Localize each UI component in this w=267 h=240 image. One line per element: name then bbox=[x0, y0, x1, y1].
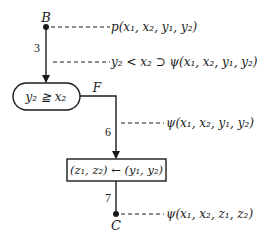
assertion-edge-6: ψ(x₁, x₂, y₁, y₂) bbox=[166, 116, 254, 130]
assertion-edge-3: y₂ < x₂ ⊃ ψ(x₁, x₂, y₁, y₂) bbox=[110, 55, 258, 69]
assignment-text: (z₁, z₂) ← (y₁, y₂) bbox=[70, 163, 163, 177]
edge-7-label: 7 bbox=[105, 191, 111, 205]
node-b-label: B bbox=[40, 10, 51, 25]
flowchart-diagram: B 3 p(x₁, x₂, y₁, y₂) y₂ < x₂ ⊃ ψ(x₁, x₂… bbox=[0, 0, 267, 240]
edge-6-label: 6 bbox=[105, 125, 111, 139]
node-c-dot bbox=[113, 211, 119, 217]
assertion-p: p(x₁, x₂, y₁, y₂) bbox=[111, 20, 198, 34]
edge-3-label: 3 bbox=[34, 41, 40, 55]
assertion-c: ψ(x₁, x₂, z₁, z₂) bbox=[166, 207, 253, 221]
node-c-label: C bbox=[111, 218, 121, 233]
decision-text: y₂ ≧ x₂ bbox=[25, 90, 67, 104]
branch-f-label: F bbox=[92, 81, 102, 95]
